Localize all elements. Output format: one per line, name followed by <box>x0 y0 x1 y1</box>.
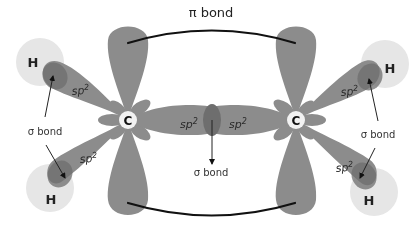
sigma-bond-label-right: σ bond <box>361 129 396 140</box>
sigma-bond-label-center: σ bond <box>194 167 229 178</box>
hydrogen-label-lower-left: H <box>46 192 57 207</box>
carbon-right-label: C <box>292 114 301 128</box>
carbon-left-label: C <box>124 114 133 128</box>
sigma-bond-label-left: σ bond <box>28 126 63 137</box>
pi-bond-line-top <box>128 31 295 44</box>
sp2-label-lower-left: sp2 <box>79 150 98 165</box>
ethene-orbital-diagram: C C H H H H sp2 sp2 sp2 sp2 sp2 sp2 π bo… <box>0 0 420 235</box>
pi-bond-line-bottom <box>128 203 295 216</box>
hydrogen-label-lower-right: H <box>364 193 375 208</box>
sp2-label-upper-right: sp2 <box>340 83 359 98</box>
hydrogen-label-upper-right: H <box>385 61 396 76</box>
hydrogen-label-upper-left: H <box>28 55 39 70</box>
pi-bond-label: π bond <box>189 5 234 20</box>
